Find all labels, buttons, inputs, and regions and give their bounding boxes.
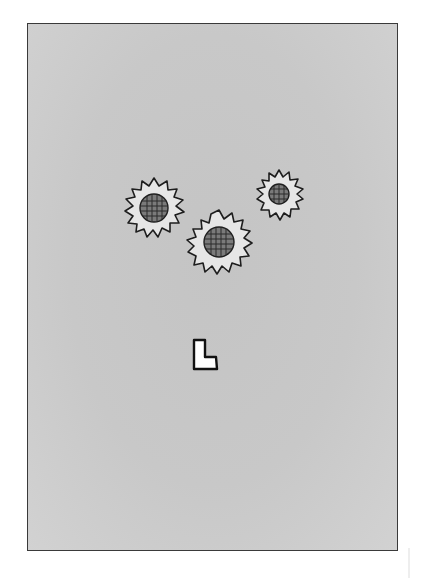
sunflower-icon (187, 210, 252, 274)
sunflower-icon (257, 170, 303, 220)
card-artwork (28, 24, 399, 552)
sunflower-icon (125, 178, 184, 237)
flower-card[interactable] (27, 23, 398, 551)
letter-l-symbol (194, 340, 217, 369)
edge-mark (408, 548, 410, 578)
